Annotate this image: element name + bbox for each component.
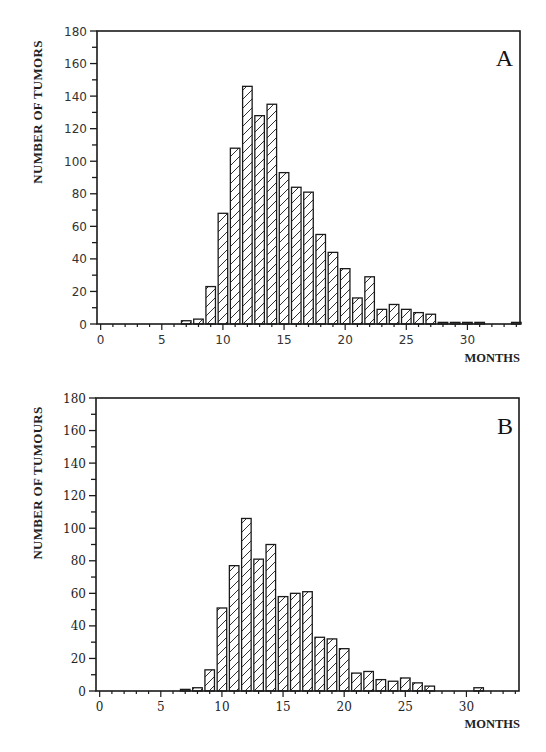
y-tick-label: 100	[63, 522, 86, 536]
bar	[266, 545, 276, 692]
bar	[279, 173, 289, 324]
panel-b: NUMBER OF TUMOURS MONTHS B 0204060801001…	[30, 392, 520, 732]
y-tick-label: 0	[79, 318, 87, 332]
y-tick-label: 160	[64, 57, 87, 71]
x-tick-label: 20	[338, 333, 353, 347]
bar	[254, 559, 264, 691]
y-axis-label: NUMBER OF TUMOURS	[30, 406, 45, 559]
bar	[413, 683, 423, 691]
bar	[292, 187, 302, 324]
y-tick-label: 20	[71, 652, 86, 666]
panel-letter: A	[496, 45, 514, 71]
x-tick-label: 30	[459, 700, 474, 714]
bar	[316, 234, 326, 324]
x-axis-label: MONTHS	[464, 717, 520, 731]
y-tick-label: 120	[64, 122, 87, 136]
bar	[267, 104, 277, 324]
x-tick-label: 10	[214, 700, 229, 714]
bar	[364, 671, 374, 691]
y-tick-label: 80	[71, 554, 86, 568]
y-tick-label: 20	[72, 285, 87, 299]
x-tick-label: 15	[275, 700, 290, 714]
bar	[194, 319, 204, 324]
y-tick-label: 40	[71, 619, 86, 633]
bar	[450, 322, 460, 324]
y-tick-label: 40	[72, 252, 87, 266]
bar	[327, 639, 337, 691]
panel-a: NUMBER OF TUMORS MONTHS A 02040608010012…	[30, 25, 521, 366]
bar	[438, 322, 448, 324]
bar	[376, 680, 386, 691]
x-axis-label: MONTHS	[464, 351, 520, 365]
x-tick-label: 5	[158, 333, 166, 347]
bar	[205, 670, 215, 691]
bar	[352, 673, 362, 691]
bar	[304, 192, 314, 324]
bar	[303, 592, 313, 691]
bar	[218, 213, 228, 324]
bar	[291, 593, 301, 691]
y-tick-label: 180	[64, 25, 87, 39]
bar	[180, 689, 190, 691]
bar	[206, 287, 216, 324]
x-tick-label: 30	[460, 333, 475, 347]
bar	[365, 277, 375, 324]
y-tick-label: 60	[71, 587, 86, 601]
y-tick-label: 60	[72, 220, 87, 234]
bar	[414, 313, 424, 324]
bar	[328, 252, 338, 324]
bar	[425, 686, 435, 691]
y-tick-label: 120	[63, 489, 86, 503]
bar	[426, 314, 436, 324]
bar	[229, 566, 239, 691]
y-tick-label: 160	[63, 424, 86, 438]
bar	[339, 649, 349, 691]
bar	[388, 681, 398, 691]
y-tick-label: 140	[64, 90, 87, 104]
y-tick-label: 180	[63, 392, 86, 406]
bar	[353, 298, 363, 324]
bar	[193, 688, 203, 691]
bar	[401, 678, 411, 691]
bar	[181, 321, 191, 324]
bar	[389, 304, 399, 324]
x-tick-label: 25	[399, 333, 414, 347]
bar	[255, 116, 265, 324]
y-tick-label: 100	[64, 155, 87, 169]
bar	[512, 322, 522, 324]
bar	[242, 518, 252, 691]
y-tick-label: 80	[72, 187, 87, 201]
bar	[243, 86, 253, 324]
bar	[463, 322, 473, 324]
panel-letter: B	[497, 413, 513, 439]
x-tick-label: 0	[96, 700, 104, 714]
bar	[377, 309, 387, 324]
figure: NUMBER OF TUMORS MONTHS A 02040608010012…	[0, 0, 546, 752]
x-tick-label: 5	[157, 700, 165, 714]
x-tick-label: 0	[97, 333, 105, 347]
x-tick-label: 15	[276, 333, 291, 347]
bar	[230, 148, 240, 324]
y-tick-label: 140	[63, 457, 86, 471]
bar	[474, 688, 484, 691]
y-tick-label: 0	[78, 685, 86, 699]
bar	[402, 309, 412, 324]
x-tick-label: 20	[337, 700, 352, 714]
bar	[340, 269, 350, 324]
bar	[278, 597, 288, 691]
bar	[475, 322, 485, 324]
x-tick-label: 25	[398, 700, 413, 714]
bar	[315, 637, 325, 691]
x-tick-label: 10	[215, 333, 230, 347]
bar	[217, 608, 227, 691]
y-axis-label: NUMBER OF TUMORS	[30, 40, 45, 183]
